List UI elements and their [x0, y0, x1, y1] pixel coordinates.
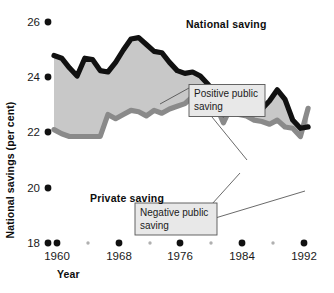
x-tick-dot-1960	[54, 240, 61, 247]
positive-public-saving-callout[interactable]: Positive public saving	[189, 85, 265, 117]
x-tick-label-1976: 1976	[167, 250, 193, 262]
chart-svg: Positive public saving Negative public s…	[0, 0, 334, 293]
y-tick-dot-22	[45, 129, 52, 136]
positive-callout-line1: Positive public	[194, 88, 258, 99]
x-tick-label-1992: 1992	[291, 250, 317, 262]
y-tick-label-20: 20	[27, 182, 40, 194]
x-axis-title: Year	[57, 268, 80, 280]
savings-chart-figure: Positive public saving Negative public s…	[0, 0, 334, 293]
y-tick-dot-20	[45, 185, 52, 192]
x-tick-dot-1992	[301, 240, 308, 247]
negative-callout-line1: Negative public	[140, 207, 208, 218]
y-tick-label-24: 24	[27, 71, 40, 83]
x-tick-dot-1964	[86, 241, 89, 244]
x-tick-dot-1972	[148, 241, 151, 244]
y-tick-label-26: 26	[27, 16, 40, 28]
x-tick-dot-1976	[177, 240, 184, 247]
y-tick-label-18: 18	[27, 237, 40, 249]
x-tick-dot-1988	[271, 241, 274, 244]
y-tick-dot-26	[45, 19, 52, 26]
y-tick-label-22: 22	[27, 126, 40, 138]
y-axis-title: National savings (per cent)	[4, 102, 16, 239]
negative-public-saving-callout[interactable]: Negative public saving	[135, 203, 217, 235]
positive-callout-line2: saving	[194, 101, 223, 112]
x-tick-dot-1968	[116, 240, 123, 247]
negative-callout-line2: saving	[140, 220, 169, 231]
y-tick-dot-24	[45, 74, 52, 81]
x-tick-label-1984: 1984	[229, 250, 255, 262]
x-tick-label-1960: 1960	[44, 250, 70, 262]
national-saving-label: National saving	[186, 18, 267, 30]
x-tick-dot-1980	[209, 241, 212, 244]
x-tick-dot-1984	[239, 240, 246, 247]
private-saving-label: Private saving	[90, 192, 164, 204]
y-tick-dot-18	[45, 240, 52, 247]
x-tick-label-1968: 1968	[106, 250, 132, 262]
